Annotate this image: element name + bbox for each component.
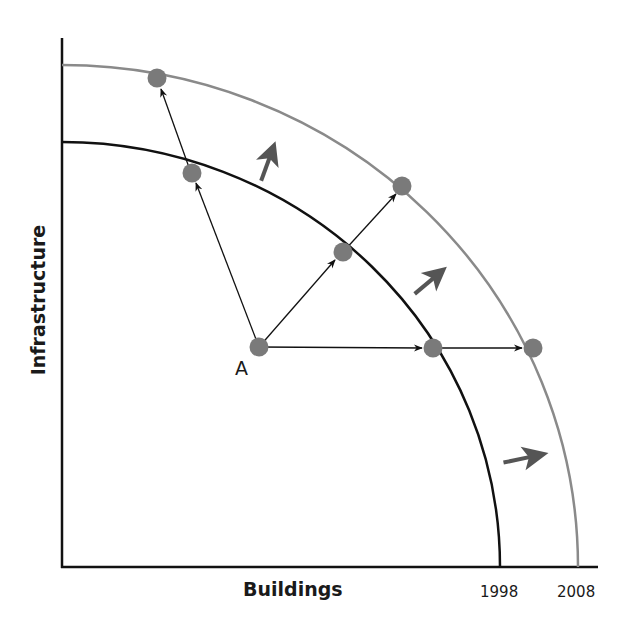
frontier-1998-label: 1998 — [480, 583, 518, 601]
shift-arrow-diag-icon — [407, 258, 455, 303]
arrow-a-to-right — [259, 347, 422, 348]
point-2008-up — [148, 69, 167, 88]
y-axis-label: Infrastructure — [27, 225, 49, 375]
point-2008-right — [524, 339, 543, 358]
arrow-up-to-up2 — [161, 89, 191, 173]
arrow-diag-to-diag2 — [343, 194, 396, 252]
point-1998-right — [424, 339, 443, 358]
point-a-dot — [250, 338, 269, 357]
point-a-label: A — [235, 357, 248, 379]
point-1998-diag — [334, 243, 353, 262]
point-1998-up — [183, 164, 202, 183]
shift-arrow-up-icon — [250, 137, 287, 185]
arrow-a-to-up — [196, 183, 259, 347]
arrow-a-to-diag — [259, 260, 335, 347]
x-axis-label: Buildings — [243, 578, 343, 600]
point-2008-diag — [393, 177, 412, 196]
frontier-2008-label: 2008 — [557, 583, 595, 601]
frontier-2008-curve — [62, 65, 578, 567]
shift-arrow-right-icon — [501, 441, 551, 474]
diagram-canvas — [0, 0, 628, 637]
ppf-diagram: Buildings Infrastructure 1998 2008 A — [0, 0, 628, 637]
